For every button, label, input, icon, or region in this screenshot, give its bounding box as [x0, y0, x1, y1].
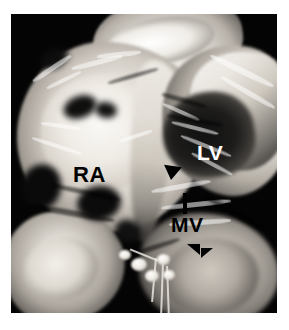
label-left-ventricle: LV [197, 142, 223, 163]
label-right-atrium: RA [73, 164, 106, 186]
valve-nodule [157, 254, 170, 265]
valve-nodule [131, 258, 147, 271]
label-mitral-valve: MV [171, 214, 204, 235]
pointer-bar-icon [183, 193, 187, 214]
valve-nodule [163, 270, 175, 280]
pathology-figure: RA LV MV [0, 0, 289, 330]
valve-nodule [119, 250, 131, 260]
arrowhead-lower-secondary-icon [201, 248, 213, 258]
specimen-photograph: RA LV MV [11, 14, 277, 313]
valve-nodule [145, 270, 159, 282]
arrowhead-upper-icon [162, 165, 182, 181]
arrowhead-lower-icon [187, 244, 200, 255]
